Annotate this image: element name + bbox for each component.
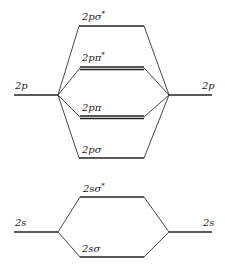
conn-right-2p-sigma	[144, 95, 169, 158]
2s-sigma-star-label: 2sσ*	[82, 182, 105, 194]
2p-sigma-label: 2pσ	[81, 144, 103, 155]
left-2p-label: 2p	[14, 80, 28, 91]
conn-right-2s-sigma	[144, 232, 169, 257]
2p-pi-star-label: 2pπ*	[81, 51, 105, 63]
2p-sigma-star-label: 2pσ*	[81, 10, 106, 22]
2s-sigma-label: 2sσ	[81, 243, 101, 254]
conn-left-2p-sigma-star	[58, 26, 79, 95]
conn-left-2s-sigma-star	[58, 197, 80, 232]
mo-diagram: 2p 2p 2pσ* 2pπ* 2pπ 2pσ 2s 2s 2sσ*	[0, 0, 225, 266]
conn-left-2p-pi-star	[58, 68, 80, 95]
conn-left-2p-sigma	[58, 95, 79, 158]
conn-right-2p-sigma-star	[144, 26, 169, 95]
right-2s-label: 2s	[202, 217, 215, 228]
conn-right-2p-pi	[144, 95, 169, 117]
right-2p-label: 2p	[201, 80, 215, 91]
2p-pi-label: 2pπ	[81, 102, 102, 113]
conn-right-2p-pi-star	[144, 68, 169, 95]
conn-left-2s-sigma	[58, 232, 80, 257]
left-2s-label: 2s	[14, 217, 27, 228]
conn-right-2s-sigma-star	[144, 197, 169, 232]
